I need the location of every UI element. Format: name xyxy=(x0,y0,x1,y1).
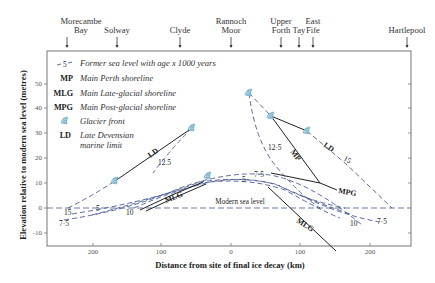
y-tick-labels: 50 40 30 20 10 0 -10 xyxy=(33,80,43,237)
glacier-front-icon xyxy=(303,127,310,134)
legend-item-former-sea-level: 5 Former sea level with age x 1000 years xyxy=(57,58,216,69)
arrow-head-icon xyxy=(312,45,315,48)
svg-text:marine limit: marine limit xyxy=(80,140,123,150)
legend-item-glacier-front: Glacier front xyxy=(61,116,125,126)
svg-text:10: 10 xyxy=(126,208,134,217)
legend-item-ld: LD Late Devensian marine limit xyxy=(60,130,134,150)
svg-text:12.5: 12.5 xyxy=(158,158,171,167)
curve-125-east xyxy=(249,93,320,208)
svg-text:10: 10 xyxy=(350,219,358,228)
site-rannoch-moor: Rannoch Moor xyxy=(216,16,247,48)
site-hartlepool: Hartlepool xyxy=(389,25,426,48)
svg-text:5: 5 xyxy=(63,60,67,69)
svg-text:Bay: Bay xyxy=(74,25,89,35)
svg-text:MPG: MPG xyxy=(338,186,357,198)
y-axis-title: Elevation relative to modern sea level (… xyxy=(18,70,28,240)
svg-text:Main Post-glacial shoreline: Main Post-glacial shoreline xyxy=(79,102,176,112)
shoreline-diagram: Morecambe Bay Solway Clyde Rannoch Moor … xyxy=(0,0,435,283)
curve-15-west xyxy=(68,181,115,208)
svg-text:5: 5 xyxy=(242,175,246,184)
curve-labels: LD LD MP MPG MLG MLG 15 7·5 5 10 12.5 12… xyxy=(59,140,387,233)
arrow-head-icon xyxy=(66,45,69,48)
site-east-fife: East Fife xyxy=(306,16,321,48)
legend: 5 Former sea level with age x 1000 years… xyxy=(53,58,216,150)
svg-text:LD: LD xyxy=(60,131,71,140)
svg-text:10: 10 xyxy=(35,179,43,187)
svg-text:50: 50 xyxy=(35,80,43,88)
x-tick-labels: 200 100 0 100 200 xyxy=(88,248,376,256)
arrow-head-icon xyxy=(280,45,283,48)
glacier-front-icon xyxy=(111,177,118,184)
svg-text:30: 30 xyxy=(35,129,43,137)
x-axis-title: Distance from site of final ice decay (k… xyxy=(155,260,305,270)
legend-item-mp: MP Main Perth shoreline xyxy=(60,73,153,83)
svg-text:MLG: MLG xyxy=(163,190,184,205)
svg-text:Glacier front: Glacier front xyxy=(80,116,125,126)
glacier-front-icon xyxy=(61,117,68,124)
svg-text:7·5: 7·5 xyxy=(254,170,264,179)
site-tay: Tay xyxy=(293,25,306,48)
site-upper-forth: Upper Forth xyxy=(270,16,292,48)
svg-text:MP: MP xyxy=(288,148,303,163)
svg-text:MLG: MLG xyxy=(295,216,316,234)
modern-sea-level-label: Modern sea level xyxy=(215,198,265,206)
svg-text:Main Late-glacial shoreline: Main Late-glacial shoreline xyxy=(79,88,176,98)
svg-text:200: 200 xyxy=(365,248,376,256)
site-morecambe-bay: Morecambe Bay xyxy=(60,16,101,48)
svg-text:15: 15 xyxy=(342,154,353,166)
svg-text:100: 100 xyxy=(156,248,167,256)
svg-text:Late Devensian: Late Devensian xyxy=(79,130,134,140)
svg-text:Hartlepool: Hartlepool xyxy=(389,25,426,35)
svg-text:200: 200 xyxy=(88,248,99,256)
svg-text:7·5: 7·5 xyxy=(59,219,69,228)
svg-text:MP: MP xyxy=(60,74,73,83)
arrow-head-icon xyxy=(298,45,301,48)
site-solway: Solway xyxy=(104,25,130,48)
svg-text:Solway: Solway xyxy=(104,25,130,35)
arrow-head-icon xyxy=(406,45,409,48)
svg-text:5: 5 xyxy=(96,204,100,213)
curve-mpg xyxy=(271,173,337,190)
svg-text:-10: -10 xyxy=(33,229,43,237)
arrow-head-icon xyxy=(179,45,182,48)
svg-text:MLG: MLG xyxy=(53,89,73,98)
svg-text:Former sea level with age x 10: Former sea level with age x 1000 years xyxy=(79,58,216,68)
svg-text:Moor: Moor xyxy=(221,25,240,35)
legend-item-mpg: MPG Main Post-glacial shoreline xyxy=(54,102,176,112)
arrow-head-icon xyxy=(230,45,233,48)
svg-text:20: 20 xyxy=(35,154,43,162)
svg-text:LD: LD xyxy=(322,140,336,154)
svg-text:Fife: Fife xyxy=(306,25,320,35)
svg-text:40: 40 xyxy=(35,104,43,112)
svg-text:12·5: 12·5 xyxy=(268,143,282,152)
glacier-front-icon xyxy=(188,124,195,131)
svg-text:7·5: 7·5 xyxy=(377,217,387,226)
svg-text:0: 0 xyxy=(229,248,233,256)
svg-text:Clyde: Clyde xyxy=(170,25,191,35)
svg-text:15: 15 xyxy=(64,208,72,217)
site-clyde: Clyde xyxy=(170,25,191,48)
glacier-front-icon xyxy=(245,89,252,96)
svg-text:Forth: Forth xyxy=(272,25,291,35)
svg-text:Tay: Tay xyxy=(293,25,306,35)
legend-item-mlg: MLG Main Late-glacial shoreline xyxy=(53,88,176,98)
arrow-head-icon xyxy=(116,45,119,48)
svg-text:Main Perth shoreline: Main Perth shoreline xyxy=(79,73,153,83)
glacier-front-icon xyxy=(204,172,211,179)
svg-text:0: 0 xyxy=(39,204,43,212)
site-labels: Morecambe Bay Solway Clyde Rannoch Moor … xyxy=(60,16,426,48)
svg-text:100: 100 xyxy=(295,248,306,256)
svg-text:MPG: MPG xyxy=(54,103,74,112)
